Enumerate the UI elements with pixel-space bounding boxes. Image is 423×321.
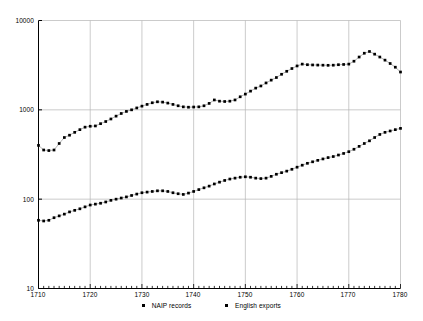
data-point [187, 106, 190, 109]
data-point [327, 64, 330, 67]
data-point [37, 219, 40, 222]
data-point [316, 64, 319, 67]
data-point [218, 100, 221, 103]
data-point [373, 136, 376, 139]
data-point [58, 215, 61, 218]
data-point [135, 193, 138, 196]
data-point [177, 192, 180, 195]
data-point [249, 176, 252, 179]
data-point [265, 177, 268, 180]
data-point [254, 177, 257, 180]
data-point [79, 207, 82, 210]
data-point [42, 220, 45, 223]
data-point [68, 134, 71, 137]
data-point [172, 191, 175, 194]
data-point [208, 102, 211, 105]
x-axis-tick-1770: 1770 [334, 291, 362, 298]
data-point [353, 148, 356, 151]
data-point [182, 193, 185, 196]
data-point [84, 126, 87, 129]
data-point [146, 191, 149, 194]
data-point [197, 106, 200, 109]
series-naip-records [37, 127, 402, 222]
data-point [115, 198, 118, 201]
data-point [94, 203, 97, 206]
data-point [63, 213, 66, 216]
data-point [296, 65, 299, 68]
data-point [322, 64, 325, 67]
x-axis-tick-1720: 1720 [76, 291, 104, 298]
data-point [311, 160, 314, 163]
data-point [342, 63, 345, 66]
data-point [378, 133, 381, 136]
data-point [104, 120, 107, 123]
data-point [110, 118, 113, 121]
data-point [332, 64, 335, 67]
data-point [285, 70, 288, 73]
data-point [337, 63, 340, 66]
data-point [275, 173, 278, 176]
data-point [89, 125, 92, 128]
data-point [187, 192, 190, 195]
y-axis-tick-10000: 10000 [8, 17, 34, 24]
axis-ticks [39, 21, 401, 289]
data-point [311, 64, 314, 67]
data-point [389, 62, 392, 65]
data-point [218, 181, 221, 184]
data-point [254, 87, 257, 90]
data-point [99, 202, 102, 205]
data-point [285, 170, 288, 173]
data-point [228, 100, 231, 103]
data-point [394, 128, 397, 131]
data-point [141, 105, 144, 108]
data-point [125, 196, 128, 199]
data-point [347, 63, 350, 66]
data-point [125, 110, 128, 113]
series-line [39, 128, 401, 221]
data-point [130, 108, 133, 111]
data-point [156, 100, 159, 103]
data-point [156, 189, 159, 192]
data-point [260, 177, 263, 180]
data-point [394, 66, 397, 69]
data-point [79, 128, 82, 131]
data-point [234, 177, 237, 180]
legend-marker-icon [142, 304, 145, 307]
data-point [306, 162, 309, 165]
data-point [363, 142, 366, 145]
data-point [384, 131, 387, 134]
data-point [265, 82, 268, 85]
data-point [399, 127, 402, 130]
data-point [53, 149, 56, 152]
chart-container: 10000 1000 100 10 1710 1720 1730 1740 17… [0, 0, 423, 321]
data-point [347, 150, 350, 153]
legend-marker-icon [225, 304, 228, 307]
data-point [177, 104, 180, 107]
y-axis-tick-1000: 1000 [8, 106, 34, 113]
data-point [280, 73, 283, 76]
data-point [260, 85, 263, 88]
data-point [368, 50, 371, 53]
plot-area [0, 0, 423, 321]
y-axis-tick-100: 100 [8, 196, 34, 203]
data-point [141, 191, 144, 194]
data-point [327, 156, 330, 159]
data-point [58, 142, 61, 145]
series-english-exports [37, 50, 402, 152]
x-axis-tick-1780: 1780 [386, 291, 414, 298]
x-axis-tick-1760: 1760 [283, 291, 311, 298]
data-point [301, 164, 304, 167]
gridlines [39, 21, 401, 289]
data-point [291, 168, 294, 171]
data-point [94, 125, 97, 128]
data-point [399, 71, 402, 74]
data-point [37, 144, 40, 147]
data-point [223, 100, 226, 103]
data-point [249, 90, 252, 93]
legend-item-english-exports: English exports [225, 302, 281, 309]
data-point [373, 53, 376, 56]
data-point [275, 76, 278, 79]
data-point [368, 139, 371, 142]
data-point [213, 183, 216, 186]
data-point [47, 149, 50, 152]
